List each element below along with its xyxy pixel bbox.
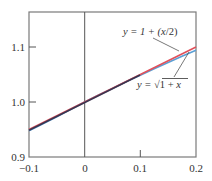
- x-tick-label-0: 0: [82, 162, 88, 174]
- chart-svg: y = 1 + (x/2) y = √1 + x 1.1 1.0 0.9 −0.…: [0, 0, 212, 181]
- y-tick-label-1.0: 1.0: [11, 96, 25, 108]
- linear-approximation-chart: y = 1 + (x/2) y = √1 + x 1.1 1.0 0.9 −0.…: [0, 0, 212, 181]
- x-tick-label-0.2: 0.2: [189, 162, 203, 174]
- x-tick-label-neg0.1: −0.1: [19, 162, 39, 174]
- tangent-leader-line: [153, 38, 179, 51]
- y-tick-label-1.1: 1.1: [11, 41, 25, 53]
- sqrt-label: y = √1 + x: [136, 79, 181, 90]
- tangent-label: y = 1 + (x/2): [122, 26, 178, 38]
- sqrt-label-var: x: [175, 79, 181, 90]
- sqrt-label-body: 1 +: [160, 79, 176, 90]
- tangent-label-prefix: y = 1 + (: [122, 26, 163, 38]
- sqrt-label-prefix: y =: [136, 79, 154, 90]
- tangent-label-suffix: /2): [166, 26, 178, 38]
- x-tick-label-0.1: 0.1: [133, 162, 147, 174]
- sqrt-curve: [29, 50, 196, 131]
